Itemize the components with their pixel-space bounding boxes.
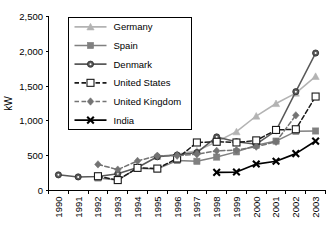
x-tick-label: 1998 [211, 197, 222, 218]
data-point-marker [213, 147, 220, 154]
data-point-marker [312, 138, 319, 145]
data-point-marker [313, 128, 319, 134]
data-point-marker [253, 113, 260, 120]
y-axis-title: kW [3, 96, 14, 111]
legend-label: India [114, 115, 135, 126]
x-tick-label: 1991 [73, 197, 84, 218]
data-point-marker [194, 158, 200, 164]
data-point-marker [272, 100, 279, 107]
x-tick-label: 2002 [290, 197, 301, 218]
data-point-marker [95, 161, 102, 168]
data-point-marker-center [57, 174, 59, 176]
data-point-marker [134, 157, 141, 164]
x-tick-label: 1999 [231, 197, 242, 218]
legend-label: United Kingdom [114, 96, 182, 107]
y-tick-label: 500 [27, 150, 43, 161]
wind-turbine-capacity-line-chart: 05001,0001,5002,0002,5001990199119921993… [0, 0, 332, 233]
legend-label: Spain [114, 40, 138, 51]
y-tick-label: 2,500 [19, 11, 43, 22]
data-point-marker-center [216, 136, 218, 138]
legend-border [69, 18, 192, 130]
legend-label: Germany [114, 21, 153, 32]
x-tick-label: 1996 [172, 197, 183, 218]
y-tick-label: 1,500 [19, 81, 43, 92]
series-line-path [217, 141, 316, 172]
data-point-marker-center [315, 52, 317, 54]
data-point-marker [87, 42, 93, 48]
y-tick-label: 2,000 [19, 46, 43, 57]
data-point-marker [87, 79, 94, 86]
legend-item-united-kingdom[interactable]: United Kingdom [75, 96, 182, 107]
data-point-marker [233, 139, 240, 146]
x-tick-label: 2000 [251, 197, 262, 218]
x-tick-label: 2003 [310, 197, 321, 218]
data-point-marker [292, 126, 299, 133]
data-point-marker [273, 126, 280, 133]
legend-label: Denmark [114, 59, 153, 70]
x-tick-label: 1990 [53, 197, 64, 218]
x-tick-label: 1993 [112, 197, 123, 218]
x-tick-label: 1994 [132, 197, 143, 218]
chart-legend: GermanySpainDenmarkUnited StatesUnited K… [69, 18, 192, 130]
data-point-marker [213, 138, 220, 145]
data-point-marker-center [90, 63, 92, 65]
legend-item-united-states[interactable]: United States [75, 77, 171, 88]
legend-label: United States [114, 77, 171, 88]
chart-canvas: 05001,0001,5002,0002,5001990199119921993… [0, 0, 332, 233]
data-point-marker [154, 165, 161, 172]
data-point-marker [312, 73, 319, 80]
x-tick-label: 1995 [152, 197, 163, 218]
x-tick-label: 1992 [92, 197, 103, 218]
series-spain [95, 128, 319, 183]
data-point-marker [134, 164, 141, 171]
data-point-marker [94, 173, 101, 180]
data-point-marker [312, 93, 319, 100]
data-point-marker [114, 177, 121, 184]
x-tick-label: 2001 [270, 197, 281, 218]
x-tick-label: 1997 [191, 197, 202, 218]
y-tick-label: 1,000 [19, 115, 43, 126]
data-point-marker-center [295, 91, 297, 93]
y-tick-label: 0 [38, 185, 43, 196]
data-point-marker [193, 139, 200, 146]
data-point-marker-center [77, 176, 79, 178]
